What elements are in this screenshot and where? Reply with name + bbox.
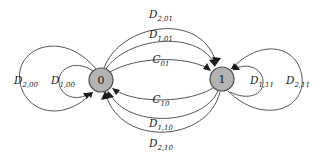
edge-label-c10: C10 <box>153 94 170 105</box>
edge-label-d2-10: D2,10 <box>149 138 173 149</box>
edge-label-d2-01: D2,01 <box>149 9 173 20</box>
edge-label-d1-10: D1,10 <box>149 118 173 129</box>
state-transition-diagram: 0 1 D2,00 D1,00 D2,01 D1,01 C01 C10 D1,1… <box>0 0 322 153</box>
edge-label-d2-00: D2,00 <box>14 75 38 86</box>
edge-label-d1-01: D1,01 <box>149 29 173 40</box>
edge-label-d2-11: D2,11 <box>286 75 310 86</box>
edge-label-d1-00: D1,00 <box>51 75 75 86</box>
edge-label-c01: C01 <box>153 54 170 65</box>
edge-label-d1-11: D1,11 <box>250 75 274 86</box>
arrowhead-c10 <box>112 88 120 95</box>
node-state-1-label: 1 <box>219 73 226 86</box>
node-state-0-label: 0 <box>98 74 105 87</box>
